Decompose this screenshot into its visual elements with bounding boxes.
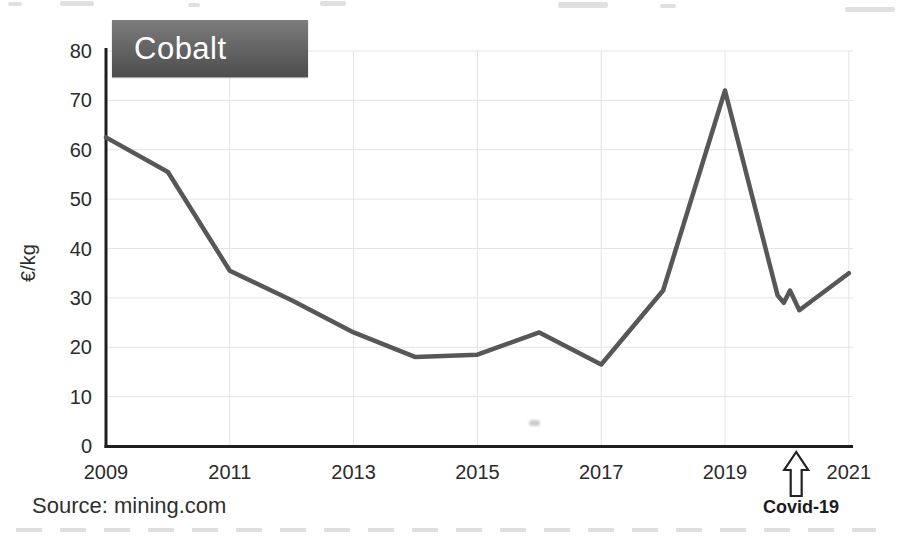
chart-title-box: Cobalt [112,20,308,77]
svg-text:60: 60 [70,139,92,161]
svg-text:80: 80 [70,40,92,62]
chart-title: Cobalt [112,31,227,67]
svg-text:20: 20 [70,336,92,358]
y-tick-labels: 01020304050607080 [70,40,92,457]
svg-text:2019: 2019 [703,461,748,483]
svg-text:2011: 2011 [208,461,251,483]
svg-text:0: 0 [81,435,92,457]
y-gridlines [107,51,853,397]
svg-text:10: 10 [70,386,92,408]
scan-artifact [529,420,540,426]
svg-text:70: 70 [70,89,92,111]
chart-figure: 0102030405060708020092011201320152017201… [0,0,898,540]
cobalt-price-chart: 0102030405060708020092011201320152017201… [0,0,898,540]
scan-artifact [8,2,22,6]
svg-text:50: 50 [70,188,92,210]
svg-text:2009: 2009 [84,461,129,483]
y-axis-title: €/kg [15,221,41,305]
scan-artifact [845,7,895,12]
scan-artifact [320,1,346,6]
svg-text:40: 40 [70,238,92,260]
svg-text:30: 30 [70,287,92,309]
scan-artifact [660,4,676,8]
covid-up-arrow-icon [784,452,808,496]
svg-text:2013: 2013 [331,461,376,483]
x-tick-labels: 2009201120132015201720192021 [84,461,871,483]
covid-annotation-label: Covid-19 [726,497,876,518]
scan-artifact [16,528,876,532]
svg-text:2021: 2021 [827,461,872,483]
scan-artifact [188,3,200,7]
source-caption: Source: mining.com [32,493,226,519]
scan-artifact [60,1,94,6]
svg-text:2015: 2015 [455,461,500,483]
svg-text:2017: 2017 [579,461,624,483]
scan-artifact [558,2,608,8]
